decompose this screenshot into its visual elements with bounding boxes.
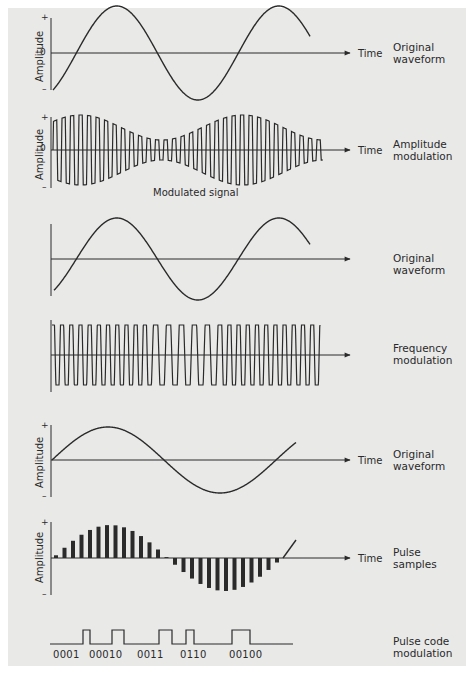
section-title-original-waveform: Original waveform bbox=[393, 253, 445, 276]
pulse-sample-bar bbox=[267, 558, 271, 570]
pulse-sample-bar bbox=[63, 548, 67, 558]
pulse-sample-bar bbox=[71, 541, 75, 558]
section-title-amplitude-modulation: Amplitude modulation bbox=[393, 139, 452, 162]
modulation-diagram bbox=[0, 0, 472, 673]
zero-tick: 0 bbox=[40, 143, 46, 153]
modulated-signal-caption: Modulated signal bbox=[153, 187, 239, 198]
axes bbox=[51, 18, 350, 595]
pcm-code: 0011 bbox=[137, 649, 164, 660]
waveform-continuation bbox=[283, 540, 296, 558]
pulse-sample-bar bbox=[199, 558, 203, 584]
pulse-sample-bar bbox=[114, 525, 118, 558]
pulse-sample-bar bbox=[148, 542, 152, 558]
minus-tick: – bbox=[42, 182, 47, 192]
time-label: Time bbox=[358, 455, 382, 466]
section-title-pulse-samples: Pulse samples bbox=[393, 547, 437, 570]
pulse-sample-bar bbox=[182, 558, 186, 572]
pulse-sample-bar bbox=[190, 558, 194, 579]
section-title-original-waveform: Original waveform bbox=[393, 449, 445, 472]
pulse-sample-bar bbox=[275, 558, 279, 563]
plus-tick: + bbox=[41, 517, 49, 527]
pcm-code: 0001 bbox=[53, 649, 80, 660]
plus-tick: + bbox=[41, 12, 49, 22]
pcm-pulse-train bbox=[50, 630, 293, 644]
time-label: Time bbox=[358, 48, 382, 59]
pulse-sample-bar bbox=[105, 525, 109, 558]
pcm-code: 00010 bbox=[89, 649, 122, 660]
minus-tick: – bbox=[42, 84, 47, 94]
pulse-sample-bar bbox=[80, 535, 84, 558]
pulse-sample-bar bbox=[216, 558, 220, 590]
pulse-sample-bar bbox=[88, 530, 92, 558]
pulse-sample-bar bbox=[54, 555, 58, 558]
pulse-sample-bar bbox=[156, 549, 160, 558]
section-title-original-waveform: Original waveform bbox=[393, 42, 445, 65]
pulse-sample-bar bbox=[250, 558, 254, 583]
y-axis-label: Amplitude bbox=[34, 129, 45, 180]
y-axis-label: Amplitude bbox=[34, 532, 45, 583]
pulse-sample-bar bbox=[233, 558, 237, 590]
plus-tick: + bbox=[41, 112, 49, 122]
y-axis-label: Amplitude bbox=[34, 437, 45, 488]
pulse-sample-bar bbox=[258, 558, 262, 577]
section-title-pulse-code-modulation: Pulse code modulation bbox=[393, 636, 452, 659]
pulse-sample-bar bbox=[131, 531, 135, 558]
pulse-sample-bar bbox=[207, 558, 211, 588]
time-label: Time bbox=[358, 145, 382, 156]
pcm-code: 0110 bbox=[180, 649, 207, 660]
pulse-sample-bar bbox=[122, 527, 126, 558]
pulse-sample-bar bbox=[139, 536, 143, 558]
pulse-sample-bar bbox=[165, 557, 169, 558]
section-title-frequency-modulation: Frequency modulation bbox=[393, 343, 452, 366]
pulse-sample-bar bbox=[224, 558, 228, 591]
zero-tick: 0 bbox=[40, 47, 46, 57]
plus-tick: + bbox=[41, 420, 49, 430]
pulse-sample-bar bbox=[173, 558, 177, 565]
minus-tick: – bbox=[42, 491, 47, 501]
pulse-sample-bar bbox=[97, 527, 101, 558]
pcm-code: 00100 bbox=[229, 649, 262, 660]
minus-tick: – bbox=[42, 589, 47, 599]
time-label: Time bbox=[358, 553, 382, 564]
pulse-sample-bar bbox=[241, 558, 245, 587]
